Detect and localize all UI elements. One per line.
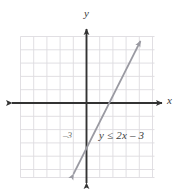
- inequality-label: y ≤ 2x – 3: [99, 130, 144, 141]
- graph-screenshot: y x –3 y ≤ 2x – 3: [0, 0, 173, 192]
- coordinate-plane-figure: [0, 0, 173, 192]
- y-intercept-tick-label: –3: [63, 131, 72, 140]
- y-axis-label: y: [84, 8, 89, 19]
- x-axis-label: x: [167, 95, 172, 106]
